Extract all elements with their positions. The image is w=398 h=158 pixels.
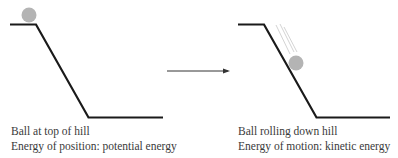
arrow-icon xyxy=(167,69,230,74)
left-caption-line2: Energy of position: potential energy xyxy=(11,139,177,154)
right-caption-line2: Energy of motion: kinetic energy xyxy=(238,139,390,154)
right-hill xyxy=(238,25,390,118)
right-caption-line1: Ball rolling down hill xyxy=(238,124,390,139)
left-hill xyxy=(10,25,163,118)
ball-rolling xyxy=(289,56,304,71)
right-caption: Ball rolling down hill Energy of motion:… xyxy=(238,124,390,154)
left-caption: Ball at top of hill Energy of position: … xyxy=(11,124,177,154)
ball-at-top xyxy=(22,8,37,23)
left-caption-line1: Ball at top of hill xyxy=(11,124,177,139)
